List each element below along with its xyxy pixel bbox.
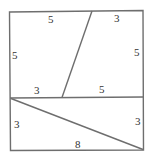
- slanted-divider: [62, 11, 92, 98]
- label-bottom: 8: [75, 138, 81, 150]
- middle-horizontal-line: [10, 97, 143, 98]
- label-right-lower: 3: [135, 115, 141, 127]
- label-right-upper: 5: [134, 46, 140, 58]
- label-left-upper: 5: [12, 49, 18, 61]
- dissection-diagram: 5 3 5 5 3 5 3 3 8: [0, 0, 152, 158]
- label-middle-left: 3: [34, 84, 40, 96]
- label-left-lower: 3: [14, 118, 20, 130]
- outer-square: [10, 11, 144, 151]
- label-middle-right: 5: [99, 83, 105, 95]
- label-top-left: 5: [48, 13, 54, 25]
- label-top-right: 3: [114, 12, 120, 24]
